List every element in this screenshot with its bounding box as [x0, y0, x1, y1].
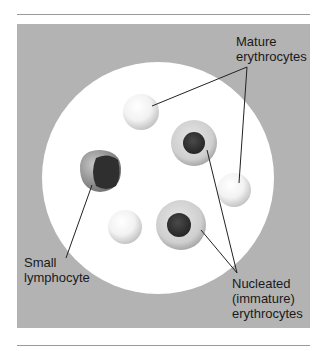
nucleated-erythrocyte-1 [171, 120, 217, 166]
small-lymphocyte [80, 150, 121, 192]
mature-erythrocyte-1 [123, 94, 159, 130]
label-mature-erythrocytes: Mature erythrocytes [236, 34, 307, 64]
nucleated-erythrocyte-2 [156, 200, 206, 250]
mature-erythrocyte-3 [108, 210, 142, 244]
mature-erythrocyte-2 [217, 173, 251, 207]
label-small-lymphocyte: Small lymphocyte [24, 255, 90, 285]
bottom-rule [17, 345, 310, 346]
label-nucleated-erythrocytes: Nucleated (immature) erythrocytes [232, 276, 303, 321]
